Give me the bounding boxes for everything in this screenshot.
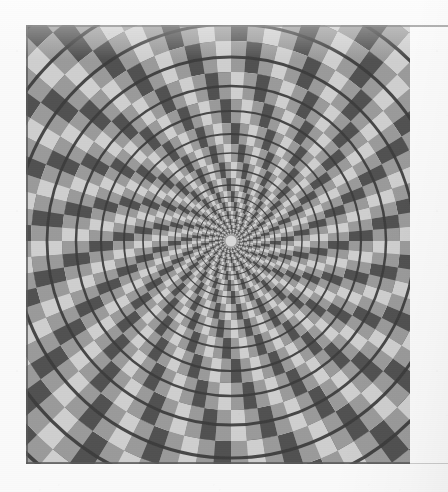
plate-rule-bottom-extension bbox=[26, 463, 448, 464]
fraser-spiral-svg bbox=[26, 25, 410, 464]
scanned-page bbox=[0, 0, 448, 492]
plate-rule-top bbox=[26, 25, 448, 27]
center-core bbox=[226, 236, 237, 247]
checker-cell bbox=[399, 241, 410, 257]
illusion-figure bbox=[26, 25, 410, 464]
checker-cell bbox=[231, 440, 249, 464]
plate-rule-left bbox=[26, 25, 28, 464]
checker-cell bbox=[213, 25, 231, 42]
